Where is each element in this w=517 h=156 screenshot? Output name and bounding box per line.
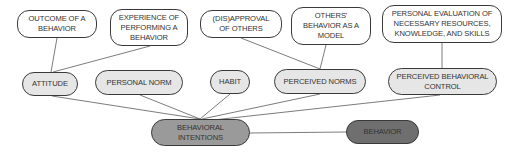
- node-others-behavior-as-a-model: OTHERS' BEHAVIOR AS A MODEL: [291, 7, 371, 45]
- node-outcome-of-a-behavior: OUTCOME OF A BEHAVIOR: [17, 10, 97, 38]
- node-personal-evaluation: PERSONAL EVALUATION OF NECESSARY RESOURC…: [382, 5, 502, 43]
- node-behavioral-intentions: BEHAVIORAL INTENTIONS: [151, 119, 250, 146]
- node-experience-of-performing-a-behavior: EXPERIENCE OF PERFORMING A BEHAVIOR: [110, 9, 188, 46]
- node-habit: HABIT: [210, 70, 250, 94]
- node-perceived-behavioral-control: PERCEIVED BEHAVIORAL CONTROL: [388, 68, 497, 95]
- node-attitude: ATTITUDE: [22, 72, 78, 96]
- node-perceived-norms: PERCEIVED NORMS: [274, 69, 366, 94]
- node-disapproval-of-others: (DIS)APPROVAL OF OTHERS: [200, 10, 282, 38]
- node-personal-norm: PERSONAL NORM: [95, 70, 183, 95]
- node-behavior: BEHAVIOR: [346, 120, 419, 144]
